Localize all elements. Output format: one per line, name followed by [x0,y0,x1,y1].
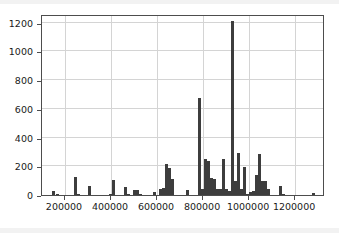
x-axis-tick-label: 1000000 [227,202,269,212]
y-axis-tick-label: 1200 [0,19,33,29]
figure-top-margin [0,0,339,4]
y-axis-tick-mark [37,196,41,197]
y-axis-tick-labels: 020040060080010001200 [0,0,37,233]
x-axis-tick-label: 800000 [184,202,220,212]
histogram-bar [198,98,201,195]
histogram-bar [267,189,270,195]
plot-area [41,15,324,196]
histogram-bar [186,190,189,195]
y-axis-tick-label: 800 [0,76,33,86]
histogram-bar [127,194,130,195]
histogram-bar [56,194,59,195]
histogram-bar [112,180,115,195]
histogram-bar [74,177,77,195]
x-axis-tick-label: 1200000 [273,202,315,212]
figure-bottom-margin [0,228,339,233]
x-axis-tick-mark [294,196,295,200]
histogram-bar [171,179,174,195]
x-axis-tick-mark [202,196,203,200]
x-axis-tick-mark [110,196,111,200]
histogram-bar [88,186,91,195]
y-axis-tick-label: 600 [0,105,33,115]
x-axis-tick-mark [64,196,65,200]
histogram-bar [282,194,285,195]
histogram-bar [312,193,315,195]
x-axis-tick-mark [248,196,249,200]
histogram-figure: 020040060080010001200 200000400000600000… [0,0,339,233]
histogram-bar [243,167,246,195]
histogram-bar [52,191,55,195]
histogram-bar [231,21,234,195]
histogram-bar [153,192,156,195]
y-axis-tick-label: 400 [0,134,33,144]
histogram-bar [139,194,142,195]
y-axis-tick-label: 200 [0,162,33,172]
x-axis-tick-mark [156,196,157,200]
x-axis-tick-label: 600000 [138,202,174,212]
bar-series [42,16,323,195]
y-axis-tick-label: 0 [0,191,33,201]
y-axis-tick-label: 1000 [0,47,33,57]
x-axis-tick-label: 400000 [92,202,128,212]
x-axis-tick-label: 200000 [46,202,82,212]
histogram-bar [77,194,80,195]
